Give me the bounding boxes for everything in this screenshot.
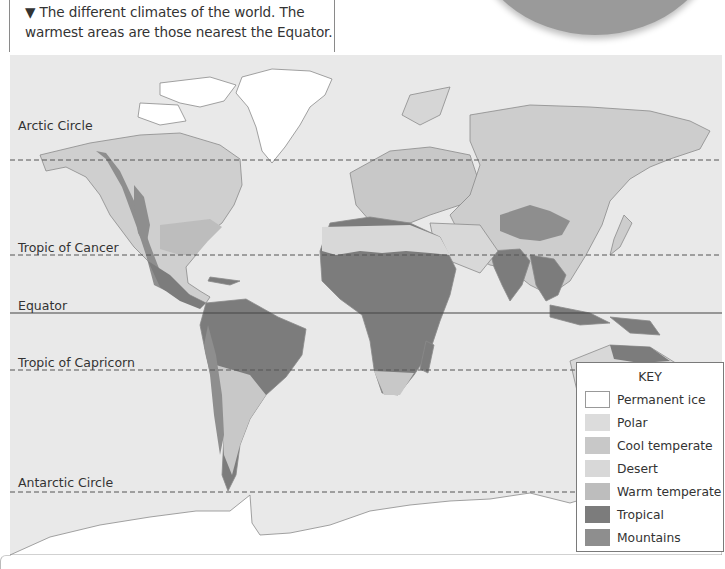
key-item-mountains: Mountains: [577, 526, 723, 549]
key-label: Tropical: [617, 508, 664, 522]
antarctic-circle-label: Antarctic Circle: [18, 475, 113, 490]
globe-graphic: [470, 0, 720, 35]
key-item-warm-temperate: Warm temperate: [577, 480, 723, 503]
tropic-of-capricorn-label: Tropic of Capricorn: [18, 355, 135, 370]
key-label: Warm temperate: [617, 485, 721, 499]
swatch-mountains: [585, 529, 610, 546]
key-label: Polar: [617, 416, 648, 430]
swatch-cool-temperate: [585, 437, 610, 454]
key-label: Cool temperate: [617, 439, 713, 453]
swatch-permanent-ice: [585, 391, 610, 408]
equator-label: Equator: [18, 298, 67, 313]
greenland: [236, 69, 332, 163]
key-label: Desert: [617, 462, 658, 476]
caption-box: ▼ The different climates of the world. T…: [9, 0, 335, 52]
swatch-warm-temperate: [585, 483, 610, 500]
asia: [450, 105, 710, 295]
swatch-polar: [585, 414, 610, 431]
key-item-tropical: Tropical: [577, 503, 723, 526]
swatch-tropical: [585, 506, 610, 523]
key-title: KEY: [577, 369, 723, 384]
key-label: Permanent ice: [617, 393, 706, 407]
caption-line-1: ▼ The different climates of the world. T…: [25, 2, 333, 22]
key-item-cool-temperate: Cool temperate: [577, 434, 723, 457]
arctic-circle-label: Arctic Circle: [18, 118, 93, 133]
key-label: Mountains: [617, 531, 681, 545]
key-item-desert: Desert: [577, 457, 723, 480]
arctic-islands: [160, 77, 236, 107]
tropic-of-cancer-label: Tropic of Cancer: [18, 240, 119, 255]
key-item-permanent-ice: Permanent ice: [577, 388, 723, 411]
page-corner-mark: [0, 555, 11, 569]
key-item-polar: Polar: [577, 411, 723, 434]
caption-line-2: warmest areas are those nearest the Equa…: [25, 22, 333, 42]
map-caption: ▼ The different climates of the world. T…: [25, 2, 333, 42]
swatch-desert: [585, 460, 610, 477]
map-key: KEY Permanent ice Polar Cool temperate D…: [576, 362, 724, 552]
